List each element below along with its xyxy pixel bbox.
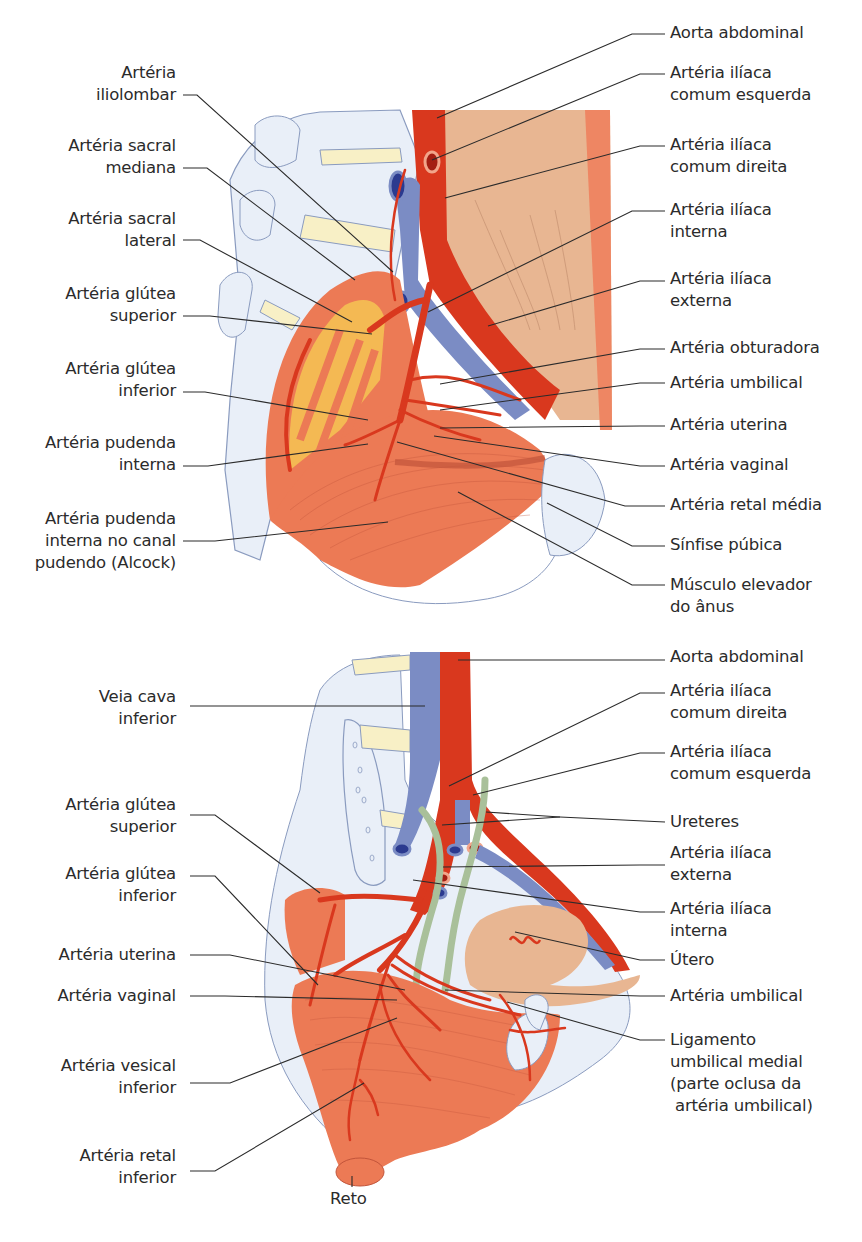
label-arteria-pudenda-interna: Artéria pudenda interna [45,432,176,476]
label-aorta-abdominal: Aorta abdominal [670,22,804,44]
label-arteria-iliaca-externa: Artéria ilíaca externa [670,268,772,312]
label-arteria-iliaca-comum-direita-2: Artéria ilíaca comum direita [670,680,787,724]
label-arteria-uterina-2: Artéria uterina [59,944,176,966]
anatomy-figure: Artéria iliolombar Artéria sacral median… [0,0,862,1242]
label-arteria-iliaca-interna-2: Artéria ilíaca interna [670,898,772,942]
label-arteria-iliaca-comum-esquerda: Artéria ilíaca comum esquerda [670,62,811,106]
label-arteria-vesical-inferior: Artéria vesical inferior [61,1055,176,1099]
top-panel-illustration [218,110,612,604]
label-arteria-retal-inferior: Artéria retal inferior [79,1145,176,1189]
label-arteria-iliaca-interna: Artéria ilíaca interna [670,199,772,243]
label-arteria-iliolombar: Artéria iliolombar [96,62,176,106]
label-veia-cava-inferior: Veia cava inferior [99,686,176,730]
label-aorta-abdominal-2: Aorta abdominal [670,646,804,668]
label-musculo-elevador-do-anus: Músculo elevador do ânus [670,574,812,618]
label-arteria-pudenda-interna-canal: Artéria pudenda interna no canal pudendo… [35,508,176,574]
label-arteria-vaginal-2: Artéria vaginal [57,985,176,1007]
label-arteria-iliaca-comum-direita: Artéria ilíaca comum direita [670,134,787,178]
label-arteria-iliaca-externa-2: Artéria ilíaca externa [670,842,772,886]
label-arteria-glutea-superior: Artéria glútea superior [65,283,176,327]
label-arteria-sacral-mediana: Artéria sacral mediana [68,135,176,179]
label-arteria-glutea-inferior-2: Artéria glútea inferior [65,863,176,907]
label-reto: Reto [330,1188,367,1210]
label-ligamento-umbilical-medial: Ligamento umbilical medial (parte oclusa… [670,1029,813,1117]
label-arteria-obturadora: Artéria obturadora [670,337,820,359]
label-arteria-glutea-inferior: Artéria glútea inferior [65,358,176,402]
label-arteria-umbilical: Artéria umbilical [670,372,803,394]
label-arteria-retal-media: Artéria retal média [670,494,822,516]
label-arteria-glutea-superior-2: Artéria glútea superior [65,794,176,838]
label-arteria-sacral-lateral: Artéria sacral lateral [68,208,176,252]
label-arteria-umbilical-2: Artéria umbilical [670,985,803,1007]
bottom-panel-illustration [265,652,640,1186]
label-utero: Útero [670,949,714,971]
figure-caption-cropped [240,1232,660,1242]
label-sinfise-pubica: Sínfise púbica [670,534,782,556]
label-arteria-uterina: Artéria uterina [670,414,787,436]
label-ureteres: Ureteres [670,811,739,833]
label-arteria-iliaca-comum-esquerda-2: Artéria ilíaca comum esquerda [670,741,811,785]
label-arteria-vaginal: Artéria vaginal [670,454,789,476]
